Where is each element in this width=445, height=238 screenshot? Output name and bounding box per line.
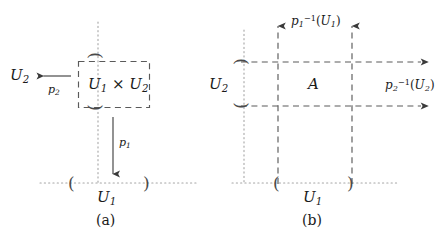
panel-a-caption: (a): [96, 213, 115, 227]
panel-b-caption: (b): [302, 213, 322, 227]
panel-b-preimage-u2-label: p2−1(U2): [385, 78, 435, 92]
panel-a-u2-label: U2: [10, 68, 29, 85]
panel-a-x-bracket-open: (: [68, 175, 75, 192]
panel-a-y-bracket-open: (: [87, 52, 104, 59]
panel-b-preimage-vertical-strip: [278, 26, 352, 184]
panel-a-y-bracket-close: ): [87, 104, 104, 111]
figure-vector-layer: [0, 0, 445, 238]
panel-a-u1-label: U1: [97, 190, 116, 207]
panel-b-preimage-u1-label: p1−1(U1): [291, 14, 341, 28]
panel-a-p2-label: p2: [48, 84, 60, 97]
panel-b-x-bracket-open: (: [273, 175, 280, 192]
panel-b-region-a-label: A: [308, 77, 319, 92]
panel-b-y-bracket-open: (: [233, 58, 250, 65]
product-topology-figure: U2 ( ) U1 × U2 p2 p1 ( ) U1 (a) U2 ( ) p…: [0, 0, 445, 238]
panel-a-p1-label: p1: [119, 137, 131, 150]
panel-b-y-bracket-close: ): [233, 102, 250, 109]
panel-b-x-bracket-close: ): [347, 175, 354, 192]
panel-a-box-label: U1 × U2: [88, 77, 148, 94]
panel-b-u2-label: U2: [209, 77, 228, 94]
panel-a-x-bracket-close: ): [143, 175, 150, 192]
panel-b-u1-label: U1: [303, 190, 322, 207]
panel-a-axes: [40, 22, 196, 183]
